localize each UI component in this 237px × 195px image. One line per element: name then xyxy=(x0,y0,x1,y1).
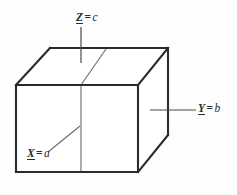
label-x-variable: X xyxy=(27,147,35,160)
label-z-equals-c: Z=c xyxy=(76,12,98,24)
figure-canvas: Z=c Y=b X=a xyxy=(0,0,237,195)
label-x-equals-a: X=a xyxy=(27,148,50,160)
label-x-value: a xyxy=(44,147,50,159)
label-y-value: b xyxy=(214,102,220,114)
label-y-equals-b: Y=b xyxy=(198,103,221,115)
label-z-value: c xyxy=(92,11,98,23)
box-diagram-svg xyxy=(0,0,237,195)
label-x-equals-sign: = xyxy=(35,147,44,159)
